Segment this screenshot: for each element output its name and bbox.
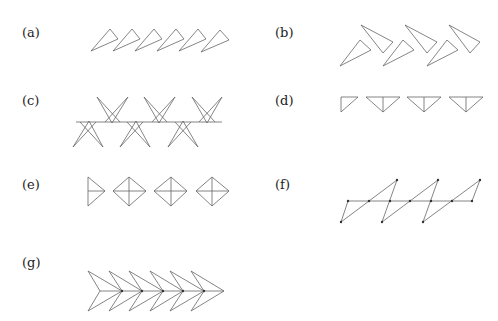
panel-a-figure — [91, 29, 229, 52]
panel-d-figure — [341, 97, 483, 112]
panel-b-figure — [340, 25, 480, 66]
panel-e-figure — [88, 177, 229, 206]
panel-f-figure — [340, 179, 481, 223]
figure-canvas — [0, 0, 498, 321]
panel-g-figure — [88, 271, 224, 311]
panel-c-figure — [73, 97, 222, 147]
